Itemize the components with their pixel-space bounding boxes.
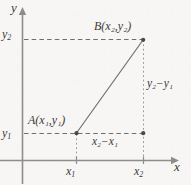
x1-tick-label: x1 <box>66 165 75 179</box>
y1-tick-label: y1 <box>2 127 11 141</box>
y-axis-arrow <box>19 7 26 15</box>
axes-group <box>0 7 179 184</box>
x2-subscript: 2 <box>139 170 143 179</box>
triangle-group <box>77 40 144 133</box>
guide-lines-group <box>24 40 144 161</box>
y1-subscript: 1 <box>7 132 11 141</box>
horizontal-leg-label: x₂−x₁ <box>92 136 118 148</box>
y-axis-label: y <box>11 1 17 14</box>
coordinate-geometry-figure: y x y2 y1 x1 x2 B(x₂,y₂) A(x₁,y₁) y₂−y₁ … <box>0 0 191 185</box>
vertical-leg-label: y₂−y₁ <box>147 78 173 90</box>
point-a-marker <box>74 131 78 135</box>
y2-subscript: 2 <box>7 33 11 42</box>
point-b-marker <box>141 38 145 42</box>
point-b-label: B(x₂,y₂) <box>94 20 131 32</box>
x-axis-label: x <box>174 160 180 173</box>
segment-ab <box>77 40 144 133</box>
point-a-label: A(x₁,y₁) <box>28 114 65 126</box>
x2-tick-label: x2 <box>134 165 143 179</box>
x1-subscript: 1 <box>71 170 75 179</box>
point-foot-marker <box>141 131 145 135</box>
y2-tick-label: y2 <box>2 28 11 42</box>
